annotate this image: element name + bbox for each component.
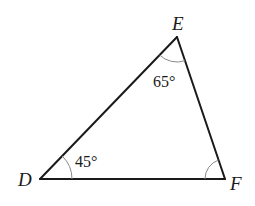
side-ef: [177, 37, 225, 179]
vertex-label-e: E: [171, 13, 184, 34]
triangle-diagram: D E F 45° 65°: [0, 0, 255, 206]
vertex-label-d: D: [17, 169, 32, 190]
vertex-label-f: F: [229, 173, 242, 194]
angle-label-d: 45°: [75, 153, 97, 170]
side-de: [40, 37, 177, 179]
angle-arc-e: [160, 55, 185, 62]
angle-label-e: 65°: [153, 73, 175, 90]
triangle-sides: [40, 37, 225, 179]
angle-arc-d: [62, 156, 72, 179]
angle-labels: 45° 65°: [75, 73, 175, 170]
angle-arc-f: [205, 160, 219, 179]
